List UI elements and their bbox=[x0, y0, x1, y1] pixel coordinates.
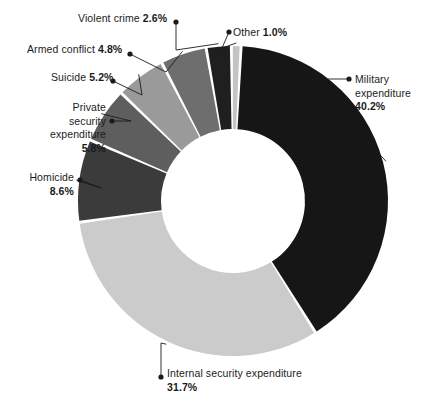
slice-label-violent-crime: Violent crime 2.6% bbox=[78, 12, 167, 26]
slice-label-suicide: Suicide 5.2% bbox=[51, 71, 114, 85]
leader-line bbox=[161, 343, 166, 377]
slice-label-armed-conflict-value: 4.8% bbox=[98, 43, 122, 55]
label-dot bbox=[173, 19, 178, 24]
slice-label-private-security-name: Private bbox=[73, 101, 106, 113]
label-dot bbox=[127, 51, 132, 56]
slice-label-military-name: Military bbox=[355, 73, 389, 85]
slice-label-suicide-value: 5.2% bbox=[89, 71, 113, 83]
donut-chart: Violent crime 2.6% Other 1.0% Armed conf… bbox=[0, 0, 434, 407]
slice-label-military-expenditure: Military expenditure 40.2% bbox=[355, 73, 433, 114]
slice-label-internal-security-value: 31.7% bbox=[167, 381, 197, 393]
label-dot bbox=[109, 118, 114, 123]
slice-label-military-value: 40.2% bbox=[355, 100, 385, 112]
slice-label-other-name: Other bbox=[233, 26, 260, 38]
slice-label-internal-security-expenditure: Internal security expenditure 31.7% bbox=[167, 367, 307, 394]
slice-label-homicide-value: 8.6% bbox=[50, 185, 74, 197]
slice-label-suicide-name: Suicide bbox=[51, 71, 86, 83]
donut-slice[interactable] bbox=[80, 212, 315, 356]
slice-label-private-security-value: 5.8% bbox=[82, 142, 106, 154]
slice-label-internal-security-name: Internal security bbox=[167, 367, 243, 379]
slice-label-homicide: Homicide 8.6% bbox=[14, 171, 74, 198]
slice-label-private-security-name3: expenditure bbox=[50, 128, 106, 140]
donut-slices-group bbox=[78, 46, 388, 356]
label-dot bbox=[158, 374, 163, 379]
slice-label-other-value: 1.0% bbox=[263, 26, 287, 38]
label-dot bbox=[346, 76, 351, 81]
donut-chart-svg bbox=[0, 0, 434, 407]
slice-label-other: Other 1.0% bbox=[233, 26, 287, 40]
slice-label-violent-crime-value: 2.6% bbox=[143, 12, 167, 24]
slice-label-homicide-name: Homicide bbox=[29, 171, 74, 183]
slice-label-private-security-expenditure: Private security expenditure 5.8% bbox=[14, 101, 106, 155]
label-dot bbox=[226, 29, 231, 34]
leader-line bbox=[176, 22, 218, 50]
slice-label-private-security-name2: security bbox=[69, 115, 106, 127]
label-dot bbox=[77, 177, 82, 182]
slice-label-armed-conflict: Armed conflict 4.8% bbox=[27, 43, 122, 57]
slice-label-violent-crime-name: Violent crime bbox=[78, 12, 140, 24]
slice-label-armed-conflict-name: Armed conflict bbox=[27, 43, 95, 55]
slice-label-military-name2: expenditure bbox=[355, 87, 411, 99]
slice-label-internal-security-name2: expenditure bbox=[246, 367, 302, 379]
